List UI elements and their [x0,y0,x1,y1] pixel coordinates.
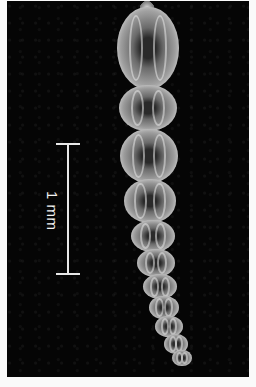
specimen [7,1,249,377]
chamber-6 [137,249,175,277]
chamber-1 [117,7,179,89]
chamber-5 [131,220,175,252]
scale-bar-label: 1 mm [44,191,61,231]
scale-bar-line [67,143,69,275]
chamber-11 [172,350,192,366]
scale-bar-bottom-cap [56,273,80,275]
chamber-4 [124,179,176,223]
chamber-2 [119,85,177,131]
chamber-3 [120,129,178,183]
specimen-photo: 1 mm [7,1,249,377]
